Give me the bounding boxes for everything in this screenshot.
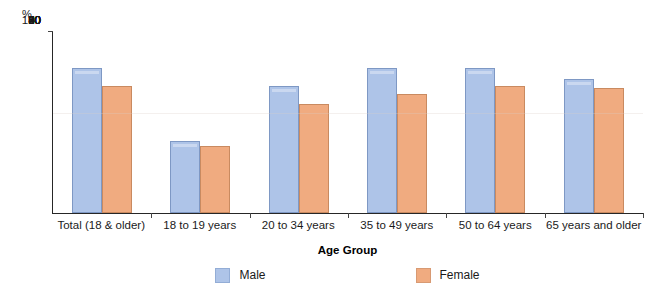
- chart-legend: MaleFemale: [52, 266, 643, 284]
- plot-wrapper: 0102030405060708090100: [52, 32, 643, 214]
- x-axis-category-label: 20 to 34 years: [249, 218, 348, 236]
- bar-male: [269, 86, 299, 213]
- x-axis-tick: [643, 213, 644, 218]
- y-axis-tick-label: 100: [22, 14, 41, 26]
- legend-swatch-male-icon: [215, 268, 230, 283]
- bar-group: [151, 32, 249, 213]
- legend-swatch-female-icon: [416, 268, 431, 283]
- x-axis-category-label: 65 years and older: [545, 218, 644, 236]
- bar-group: [446, 32, 544, 213]
- legend-label: Male: [239, 268, 265, 282]
- bar-group: [348, 32, 446, 213]
- bar-group: [545, 32, 643, 213]
- bar-male: [564, 79, 594, 213]
- bar-female: [594, 88, 624, 213]
- bar-female: [102, 86, 132, 213]
- legend-item-female[interactable]: Female: [416, 268, 480, 283]
- plot-area: 0102030405060708090100: [52, 32, 643, 214]
- x-axis-category-label: 50 to 64 years: [446, 218, 545, 236]
- bar-male: [170, 141, 200, 213]
- bar-female: [299, 104, 329, 213]
- bar-male: [72, 68, 102, 213]
- bar-female: [200, 146, 230, 213]
- bar-female: [495, 86, 525, 213]
- x-axis-category-label: Total (18 & older): [52, 218, 151, 236]
- bar-male: [465, 68, 495, 213]
- bar-group: [250, 32, 348, 213]
- bar-male: [367, 68, 397, 213]
- x-axis-title: Age Group: [52, 243, 643, 257]
- x-axis-category-label: 35 to 49 years: [348, 218, 447, 236]
- bar-chart: % 0102030405060708090100 Total (18 & old…: [0, 0, 651, 293]
- legend-item-male[interactable]: Male: [215, 268, 265, 283]
- bar-group: [53, 32, 151, 213]
- x-axis-category-label: 18 to 19 years: [151, 218, 250, 236]
- bar-female: [397, 94, 427, 213]
- legend-label: Female: [440, 268, 480, 282]
- x-axis-category-labels: Total (18 & older)18 to 19 years20 to 34…: [52, 218, 643, 236]
- bar-groups: [53, 32, 643, 213]
